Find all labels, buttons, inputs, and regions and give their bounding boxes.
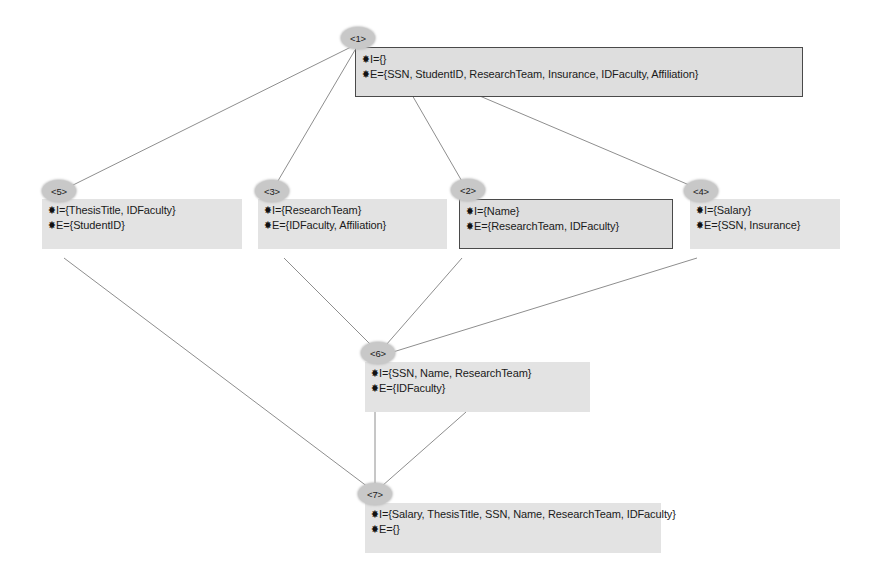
node-6-extent: E={IDFaculty} <box>379 381 445 396</box>
node-4-extent-line: ✸ E={SSN, Insurance} <box>695 218 834 233</box>
node-3-box[interactable]: ✸ I={ResearchTeam} ✸ E={IDFaculty, Affil… <box>258 199 447 249</box>
node-5-intent-line: ✸ I={ThesisTitle, IDFaculty} <box>47 203 236 218</box>
node-6-intent: I={SSN, Name, ResearchTeam} <box>379 366 531 381</box>
node-4-intent-line: ✸ I={Salary} <box>695 203 834 218</box>
node-4-label: <4> <box>693 186 709 197</box>
edge-1-4 <box>468 91 701 190</box>
bullet-icon: ✸ <box>48 218 56 233</box>
node-3-intent-line: ✸ I={ResearchTeam} <box>263 203 441 218</box>
node-6-label: <6> <box>370 348 386 359</box>
node-7-extent-line: ✸ E={} <box>370 522 655 537</box>
edge-1-5 <box>59 47 351 192</box>
edge-1-3 <box>272 50 355 191</box>
bullet-icon: ✸ <box>264 218 272 233</box>
edge-3-6 <box>284 258 371 345</box>
node-2-ellipse[interactable]: <2> <box>451 179 485 201</box>
node-3-intent: I={ResearchTeam} <box>272 203 361 218</box>
node-1-label: <1> <box>350 33 366 44</box>
node-5-intent: I={ThesisTitle, IDFaculty} <box>56 203 176 218</box>
edge-1-2 <box>408 88 467 190</box>
node-7-box[interactable]: ✸ I={Salary, ThesisTitle, SSN, Name, Res… <box>365 503 661 553</box>
bullet-icon: ✸ <box>362 52 370 67</box>
node-6-intent-line: ✸ I={SSN, Name, ResearchTeam} <box>370 366 584 381</box>
node-2-box[interactable]: ✸ I={Name} ✸ E={ResearchTeam, IDFaculty} <box>459 199 673 249</box>
bullet-icon: ✸ <box>696 218 704 233</box>
node-6-box[interactable]: ✸ I={SSN, Name, ResearchTeam} ✸ E={IDFac… <box>365 362 590 412</box>
node-2-extent-line: ✸ E={ResearchTeam, IDFaculty} <box>465 219 666 234</box>
node-3-extent: E={IDFaculty, Affiliation} <box>272 218 386 233</box>
node-5-extent-line: ✸ E={StudentID} <box>47 218 236 233</box>
node-5-label: <5> <box>51 186 67 197</box>
bullet-icon: ✸ <box>466 219 474 234</box>
node-4-extent: E={SSN, Insurance} <box>704 218 800 233</box>
node-2-intent: I={Name} <box>474 204 519 219</box>
node-1-box[interactable]: ✸ I={} ✸ E={SSN, StudentID, ResearchTeam… <box>355 47 803 97</box>
node-6-ellipse[interactable]: <6> <box>361 342 395 364</box>
node-1-intent-line: ✸ I={} <box>361 52 796 67</box>
node-4-intent: I={Salary} <box>704 203 751 218</box>
node-3-ellipse[interactable]: <3> <box>255 180 289 202</box>
bullet-icon: ✸ <box>264 203 272 218</box>
bullet-icon: ✸ <box>696 203 704 218</box>
node-1-intent: I={} <box>370 52 386 67</box>
node-2-extent: E={ResearchTeam, IDFaculty} <box>474 219 619 234</box>
bullet-icon: ✸ <box>371 507 379 522</box>
node-7-intent-line: ✸ I={Salary, ThesisTitle, SSN, Name, Res… <box>370 507 655 522</box>
bullet-icon: ✸ <box>48 203 56 218</box>
node-7-intent: I={Salary, ThesisTitle, SSN, Name, Resea… <box>379 507 676 522</box>
node-2-label: <2> <box>460 185 476 196</box>
bullet-icon: ✸ <box>466 204 474 219</box>
node-1-extent-line: ✸ E={SSN, StudentID, ResearchTeam, Insur… <box>361 67 796 82</box>
node-5-box[interactable]: ✸ I={ThesisTitle, IDFaculty} ✸ E={Studen… <box>42 199 242 249</box>
node-7-label: <7> <box>367 489 383 500</box>
node-2-intent-line: ✸ I={Name} <box>465 204 666 219</box>
edge-2-7 <box>382 412 466 486</box>
node-7-extent: E={} <box>379 522 400 537</box>
bullet-icon: ✸ <box>371 381 379 396</box>
bullet-icon: ✸ <box>371 366 379 381</box>
bullet-icon: ✸ <box>371 522 379 537</box>
edge-4-6 <box>393 258 697 352</box>
node-5-extent: E={StudentID} <box>56 218 125 233</box>
node-4-ellipse[interactable]: <4> <box>684 180 718 202</box>
edge-5-7 <box>64 258 368 487</box>
node-3-extent-line: ✸ E={IDFaculty, Affiliation} <box>263 218 441 233</box>
bullet-icon: ✸ <box>362 67 370 82</box>
node-7-ellipse[interactable]: <7> <box>358 483 392 505</box>
node-6-extent-line: ✸ E={IDFaculty} <box>370 381 584 396</box>
edge-2-6 <box>386 258 462 345</box>
node-5-ellipse[interactable]: <5> <box>42 180 76 202</box>
node-3-label: <3> <box>264 186 280 197</box>
node-1-extent: E={SSN, StudentID, ResearchTeam, Insuran… <box>370 67 698 82</box>
concept-lattice-diagram: ✸ I={} ✸ E={SSN, StudentID, ResearchTeam… <box>0 0 869 580</box>
node-1-ellipse[interactable]: <1> <box>341 27 375 49</box>
node-4-box[interactable]: ✸ I={Salary} ✸ E={SSN, Insurance} <box>690 199 840 249</box>
